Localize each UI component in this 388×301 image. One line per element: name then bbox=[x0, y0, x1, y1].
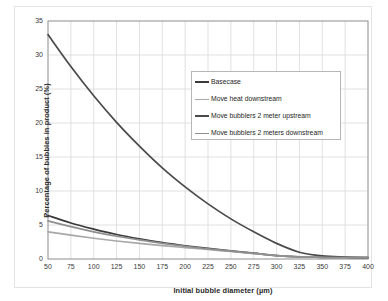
x-tick-label: 200 bbox=[173, 263, 197, 270]
x-tick-label: 300 bbox=[265, 263, 289, 270]
x-tick-label: 225 bbox=[196, 263, 220, 270]
legend-item-label: Move bubblers 2 meter upstream bbox=[211, 113, 311, 120]
y-tick-label: 25 bbox=[21, 85, 43, 92]
legend-item: Basecase bbox=[195, 76, 241, 88]
y-tick-label: 30 bbox=[21, 51, 43, 58]
legend-item: Move bubblers 2 meters downstream bbox=[195, 127, 323, 139]
legend-item-label: Move heat downstream bbox=[211, 96, 282, 103]
chart-frame: 5075100125150175200225250275300325350375… bbox=[14, 6, 372, 288]
x-tick-label: 150 bbox=[127, 263, 151, 270]
legend-swatch-line-icon bbox=[195, 133, 209, 134]
chart-legend: BasecaseMove heat downstreamMove bubbler… bbox=[191, 71, 341, 140]
x-tick-label: 275 bbox=[242, 263, 266, 270]
x-tick-label: 50 bbox=[36, 263, 60, 270]
x-tick-label: 400 bbox=[356, 263, 380, 270]
legend-swatch-line-icon bbox=[195, 115, 209, 117]
x-tick-label: 375 bbox=[333, 263, 357, 270]
y-tick-label: 20 bbox=[21, 119, 43, 126]
chart-figure: 5075100125150175200225250275300325350375… bbox=[0, 0, 388, 301]
plot-area bbox=[15, 7, 371, 287]
legend-item: Move bubblers 2 meter upstream bbox=[195, 110, 311, 122]
y-tick-label: 0 bbox=[21, 255, 43, 262]
legend-item: Move heat downstream bbox=[195, 93, 282, 105]
legend-item-label: Basecase bbox=[211, 79, 241, 86]
x-tick-label: 125 bbox=[105, 263, 129, 270]
y-tick-label: 5 bbox=[21, 221, 43, 228]
y-tick-label: 15 bbox=[21, 153, 43, 160]
x-tick-label: 75 bbox=[59, 263, 83, 270]
x-tick-label: 100 bbox=[82, 263, 106, 270]
legend-swatch-line-icon bbox=[195, 81, 209, 83]
y-tick-label: 10 bbox=[21, 187, 43, 194]
gridlines bbox=[48, 21, 368, 259]
y-axis-title: Percentage of bubbles in product (%) bbox=[42, 56, 51, 246]
legend-swatch-line-icon bbox=[195, 99, 209, 100]
y-tick-label: 35 bbox=[21, 17, 43, 24]
x-tick-label: 325 bbox=[287, 263, 311, 270]
x-tick-label: 250 bbox=[219, 263, 243, 270]
x-tick-label: 175 bbox=[150, 263, 174, 270]
x-tick-label: 350 bbox=[310, 263, 334, 270]
legend-item-label: Move bubblers 2 meters downstream bbox=[211, 130, 323, 137]
x-axis-title: Initial bubble diameter (µm) bbox=[63, 286, 383, 295]
